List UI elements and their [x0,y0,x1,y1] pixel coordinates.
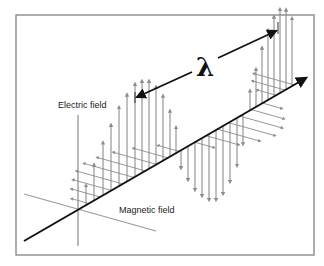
magnetic-field-arrow-icon [240,116,282,128]
magnetic-field-arrow-icon [263,103,282,108]
magnetic-field-arrow-icon [229,123,275,136]
magnetic-field-arrow-icon [257,90,276,95]
magnetic-field-arrow-icon [251,110,284,119]
magnetic-field-arrow-icon [76,171,122,184]
magnetic-field-arrow-icon [217,129,259,141]
magnetic-field-label: Magnetic field [119,205,175,215]
wavelength-label: λ [196,52,214,82]
electric-field-label: Electric field [58,100,107,110]
magnetic-field-arrows [71,74,294,204]
em-wave-diagram: λ Electric field Magnetic field [0,0,324,266]
wavelength-arrow-right-icon [218,31,276,58]
wavelength-arrow-left-icon [137,72,192,97]
magnetic-field-arrow-icon [195,142,214,147]
magnetic-field-arrow-icon [73,180,112,191]
